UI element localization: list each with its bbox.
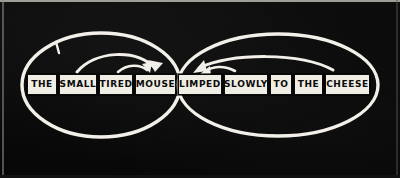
word-label: TIRED	[99, 80, 132, 89]
arrow-cheese-to-limped	[193, 57, 333, 73]
word-label: THE	[31, 80, 53, 89]
word-box: TIRED	[99, 74, 133, 95]
word-box: LIMPED	[178, 74, 222, 95]
word-box: THE	[27, 74, 57, 95]
word-label: LIMPED	[179, 80, 221, 89]
word-box: SMALL	[59, 74, 97, 95]
sentence-word-row: THE SMALL TIRED MOUSE LIMPED SLOWLY TO T…	[0, 74, 400, 95]
stray-chalk-tick-mark	[56, 42, 59, 53]
word-label: CHEESE	[326, 80, 369, 89]
word-label: SMALL	[60, 80, 97, 89]
word-box: MOUSE	[135, 74, 176, 95]
word-label: THE	[298, 80, 320, 89]
word-box: TO	[270, 74, 292, 95]
word-box: SLOWLY	[224, 74, 268, 95]
word-box: THE	[294, 74, 323, 95]
word-label: TO	[274, 80, 289, 89]
word-label: SLOWLY	[224, 80, 268, 89]
arrow-tired-to-mouse	[118, 62, 152, 73]
word-label: MOUSE	[136, 80, 176, 89]
chalkboard-diagram: THE SMALL TIRED MOUSE LIMPED SLOWLY TO T…	[0, 0, 400, 178]
word-box: CHEESE	[325, 74, 370, 95]
